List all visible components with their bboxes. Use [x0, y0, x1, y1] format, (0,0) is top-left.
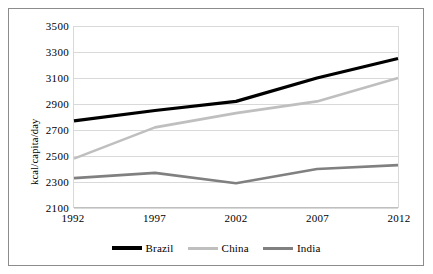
- gridline: [74, 208, 398, 209]
- series-line-brazil: [74, 59, 398, 121]
- y-tick-label: 3300: [25, 47, 69, 58]
- legend-line-swatch: [263, 247, 293, 250]
- x-tick-label: 2012: [369, 212, 429, 224]
- legend-item-china[interactable]: China: [188, 242, 249, 254]
- x-tick-label: 1997: [125, 212, 185, 224]
- x-tick-label: 2002: [206, 212, 266, 224]
- y-tick-label: 2500: [25, 151, 69, 162]
- chart-legend: BrazilChinaIndia: [9, 237, 423, 259]
- y-tick-label: 3100: [25, 73, 69, 84]
- x-axis-tick-labels: 19921997200220072012: [73, 212, 399, 230]
- legend-line-swatch: [112, 246, 142, 250]
- series-line-china: [74, 78, 398, 159]
- plot-area: [73, 26, 399, 208]
- x-tick-label: 2007: [288, 212, 348, 224]
- legend-label: India: [297, 242, 321, 254]
- legend-item-brazil[interactable]: Brazil: [112, 242, 174, 254]
- chart-figure: kcal/capita/day 210023002500270029003100…: [8, 8, 424, 266]
- legend-label: Brazil: [146, 242, 174, 254]
- y-axis-tick-labels: 21002300250027002900310033003500: [17, 26, 69, 208]
- y-tick-label: 3500: [25, 21, 69, 32]
- series-layer: [74, 26, 398, 208]
- x-tick-label: 1992: [43, 212, 103, 224]
- legend-label: China: [222, 242, 249, 254]
- legend-line-swatch: [188, 247, 218, 250]
- legend-item-india[interactable]: India: [263, 242, 321, 254]
- series-line-india: [74, 165, 398, 183]
- y-tick-label: 2300: [25, 177, 69, 188]
- y-tick-label: 2900: [25, 99, 69, 110]
- y-tick-label: 2700: [25, 125, 69, 136]
